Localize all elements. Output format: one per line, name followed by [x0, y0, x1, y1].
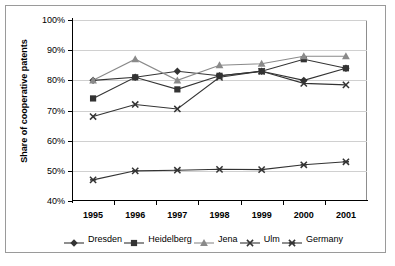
data-point-marker [131, 55, 139, 62]
data-point-marker [216, 166, 222, 172]
data-point-marker [90, 177, 96, 183]
data-point-marker [301, 162, 307, 168]
y-tick-label: 60% [47, 136, 65, 146]
series-germany [90, 159, 349, 183]
legend-marker-cross-icon [239, 234, 261, 244]
legend-entry-jena[interactable]: Jena [193, 234, 238, 244]
data-point-marker [174, 86, 180, 92]
series-plot-layer [72, 20, 367, 201]
data-point-marker [259, 167, 265, 173]
data-point-marker [90, 113, 96, 119]
data-point-marker [174, 167, 180, 173]
legend-label: Dresden [86, 234, 122, 244]
x-tick-mark [156, 201, 157, 205]
y-tick-label: 70% [47, 106, 65, 116]
legend-label: Heidelberg [146, 234, 192, 244]
legend-entry-germany[interactable]: Germany [281, 234, 343, 244]
legend-label: Germany [304, 234, 343, 244]
legend-marker-star-icon [281, 234, 303, 244]
legend-marker-triangle-icon [193, 234, 215, 244]
legend-entry-dresden[interactable]: Dresden [63, 234, 122, 244]
x-tick-mark [283, 201, 284, 205]
legend-label: Ulm [262, 234, 280, 244]
x-tick-label: 2000 [294, 210, 314, 220]
legend-marker-diamond-icon [63, 234, 85, 244]
data-point-marker [343, 159, 349, 165]
x-tick-mark [198, 201, 199, 205]
legend-label: Jena [216, 234, 238, 244]
x-tick-mark [114, 201, 115, 205]
y-tick-label: 80% [47, 75, 65, 85]
data-point-marker [132, 74, 138, 80]
y-tick-label: 100% [42, 15, 65, 25]
x-tick-label: 1997 [167, 210, 187, 220]
x-tick-label: 1996 [125, 210, 145, 220]
chart-legend: DresdenHeidelbergJenaUlmGermany [62, 229, 344, 249]
y-tick-label: 50% [47, 166, 65, 176]
x-tick-label: 2001 [336, 210, 356, 220]
data-point-marker [343, 65, 349, 71]
x-axis-line [72, 200, 368, 201]
legend-entry-heidelberg[interactable]: Heidelberg [123, 234, 192, 244]
x-tick-label: 1999 [252, 210, 272, 220]
y-tick-label: 90% [47, 45, 65, 55]
y-tick-label: 40% [47, 196, 65, 206]
legend-marker-square-icon [123, 234, 145, 244]
chart-figure: Share of cooperative patents 40%50%60%70… [0, 0, 395, 266]
x-tick-mark [325, 201, 326, 205]
data-point-marker [174, 68, 181, 75]
x-tick-mark [241, 201, 242, 205]
legend-entry-ulm[interactable]: Ulm [239, 234, 280, 244]
data-point-marker [173, 76, 181, 83]
x-tick-label: 1998 [209, 210, 229, 220]
data-point-marker [90, 95, 96, 101]
series-line [93, 162, 346, 180]
data-point-marker [132, 168, 138, 174]
y-axis-title: Share of cooperative patents [19, 21, 29, 181]
plot-area: 40%50%60%70%80%90%100% 19951996199719981… [72, 20, 367, 201]
y-axis-line [72, 18, 73, 203]
x-tick-label: 1995 [83, 210, 103, 220]
